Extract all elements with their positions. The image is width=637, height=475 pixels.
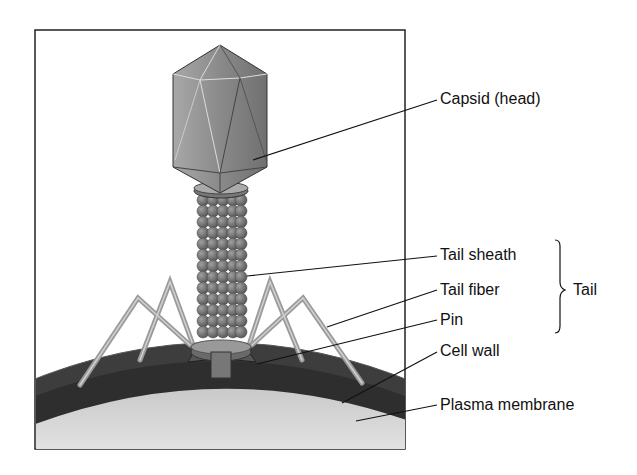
label-tail-fiber: Tail fiber xyxy=(440,281,500,299)
label-tail-group: Tail xyxy=(573,281,597,299)
label-capsid: Capsid (head) xyxy=(440,90,541,108)
label-plasma-membrane: Plasma membrane xyxy=(440,396,574,414)
label-cell-wall: Cell wall xyxy=(440,342,500,360)
capsid xyxy=(173,45,267,193)
label-tail-sheath: Tail sheath xyxy=(440,246,517,264)
tail-brace xyxy=(555,240,565,333)
tail-sheath xyxy=(197,194,247,338)
label-pin: Pin xyxy=(440,311,463,329)
